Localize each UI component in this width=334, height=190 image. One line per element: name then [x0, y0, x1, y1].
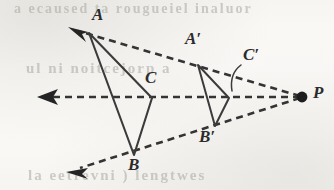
label-c: C: [145, 68, 156, 88]
arrowhead-lower-left: [66, 168, 88, 179]
dashed-ray-through-b: [80, 98, 300, 168]
point-p-dot: [297, 92, 308, 103]
label-p: P: [313, 83, 323, 103]
label-c-prime: C′: [243, 45, 259, 65]
label-b-prime: B′: [199, 127, 215, 147]
dilation-diagram-svg: [0, 0, 334, 190]
triangle-abc: [89, 33, 152, 155]
label-b: B: [128, 155, 139, 175]
geometry-figure: a ecaused ta rougueiel inaluor ul ni noi…: [0, 0, 334, 190]
label-a: A: [92, 5, 103, 25]
label-a-prime: A′: [185, 29, 201, 49]
arrowhead-upper-left: [68, 27, 88, 42]
